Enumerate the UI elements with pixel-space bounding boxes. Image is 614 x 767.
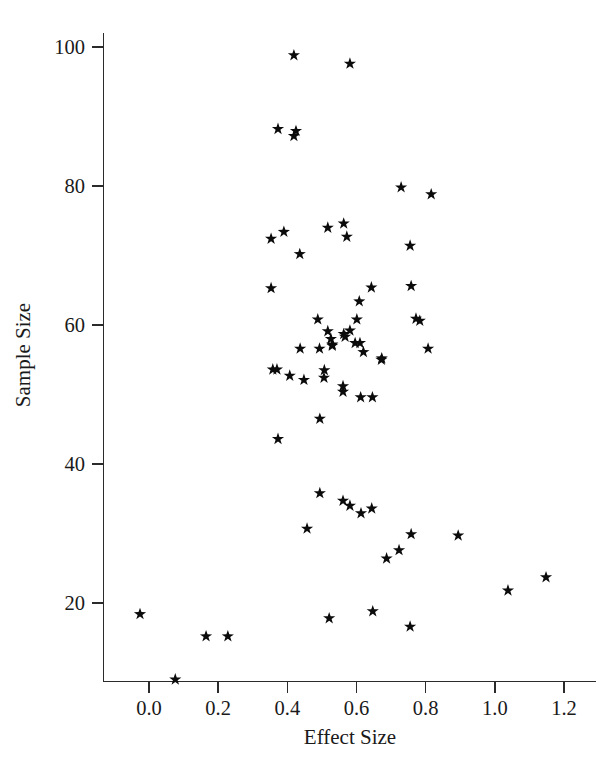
y-tick-label: 100	[54, 36, 85, 58]
data-point	[422, 342, 434, 354]
data-point	[313, 342, 325, 354]
x-tick-label: 0.6	[344, 697, 370, 719]
data-point	[338, 217, 350, 229]
data-point	[405, 528, 417, 540]
x-tick-label: 0.2	[205, 697, 231, 719]
plot-svg: 20406080100 0.00.20.40.60.81.01.2 Effect…	[0, 0, 614, 767]
y-tick-label: 20	[65, 592, 86, 614]
x-tick-label: 0.4	[275, 697, 301, 719]
data-point	[272, 123, 284, 135]
data-point	[169, 673, 181, 685]
data-point	[314, 487, 326, 499]
data-point	[353, 295, 365, 307]
data-point	[341, 230, 353, 242]
y-tick-label: 60	[65, 314, 86, 336]
data-point	[366, 502, 378, 514]
data-point	[323, 612, 335, 624]
data-point	[326, 339, 338, 351]
data-point	[322, 325, 334, 337]
data-point	[312, 313, 324, 325]
data-point-group	[134, 49, 552, 685]
data-point	[301, 522, 313, 534]
x-tick-label: 1.2	[551, 697, 577, 719]
data-point	[452, 529, 464, 541]
x-tick-label: 1.0	[482, 697, 508, 719]
y-tick-label: 40	[65, 453, 86, 475]
data-point	[351, 313, 363, 325]
y-axis-title: Sample Size	[11, 303, 35, 407]
data-point	[404, 239, 416, 251]
data-point	[365, 281, 377, 293]
data-point	[288, 49, 300, 61]
data-point	[425, 188, 437, 200]
data-point	[265, 232, 277, 244]
x-tick-label: 0.0	[136, 697, 162, 719]
data-point	[367, 605, 379, 617]
data-point	[272, 433, 284, 445]
data-point	[322, 221, 334, 233]
data-point	[200, 630, 212, 642]
data-point	[502, 584, 514, 596]
x-tick-label: 0.8	[413, 697, 439, 719]
data-point	[298, 374, 310, 386]
x-tick-group: 0.00.20.40.60.81.01.2	[136, 682, 577, 720]
data-point	[314, 412, 326, 424]
data-point	[355, 507, 367, 519]
data-point	[294, 248, 306, 260]
data-point	[540, 571, 552, 583]
data-point	[381, 552, 393, 564]
data-point	[355, 391, 367, 403]
data-point	[294, 342, 306, 354]
y-tick-group: 20406080100	[54, 36, 103, 614]
data-point	[134, 608, 146, 620]
data-point	[344, 57, 356, 69]
data-point	[278, 225, 290, 237]
data-point	[404, 620, 416, 632]
data-point	[405, 280, 417, 292]
data-point	[395, 181, 407, 193]
data-point	[265, 282, 277, 294]
data-point	[284, 369, 296, 381]
data-point	[366, 391, 378, 403]
data-point	[222, 630, 234, 642]
x-axis-title: Effect Size	[304, 725, 396, 749]
data-point	[318, 371, 330, 383]
scatter-plot-figure: 20406080100 0.00.20.40.60.81.01.2 Effect…	[0, 0, 614, 767]
y-tick-label: 80	[65, 175, 86, 197]
data-point	[393, 544, 405, 556]
